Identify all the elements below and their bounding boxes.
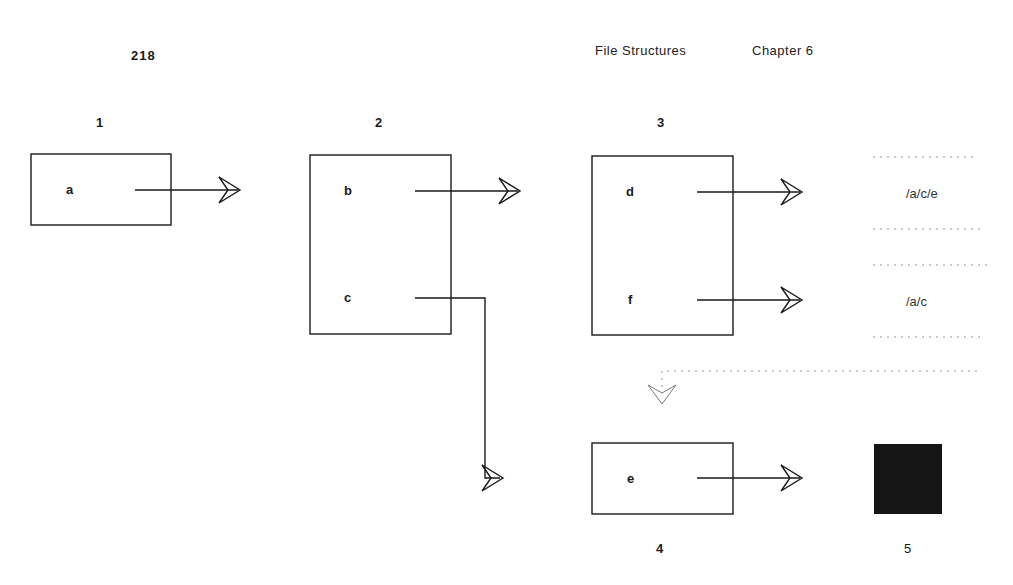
path-label-ace: /a/c/e: [906, 186, 938, 201]
node-number-2: 2: [375, 115, 382, 130]
dotted-arrowhead-icon: [648, 385, 676, 404]
diagram-canvas: [0, 0, 1013, 585]
node-box-3: [592, 156, 733, 335]
entry-label-b: b: [344, 183, 352, 198]
entry-label-e: e: [627, 471, 634, 486]
entry-label-a: a: [66, 182, 73, 197]
node-number-4: 4: [656, 541, 663, 556]
node-block-5: [874, 444, 942, 514]
node-number-5: 5: [904, 541, 911, 556]
path-label-ac: /a/c: [906, 294, 927, 309]
node-box-2: [310, 155, 451, 334]
entry-label-f: f: [628, 292, 632, 307]
node-number-3: 3: [657, 115, 664, 130]
entry-label-c: c: [344, 290, 351, 305]
entry-label-d: d: [626, 184, 634, 199]
node-number-1: 1: [96, 115, 103, 130]
